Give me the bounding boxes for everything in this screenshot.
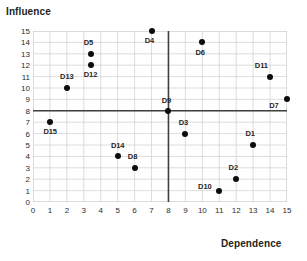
scatter-chart: Influence Dependence 0123456789101112131… bbox=[0, 0, 307, 261]
y-tick-1: 1 bbox=[16, 186, 30, 195]
x-tick-14: 14 bbox=[263, 206, 277, 215]
x-tick-13: 13 bbox=[246, 206, 260, 215]
y-tick-14: 14 bbox=[16, 38, 30, 47]
x-tick-9: 9 bbox=[178, 206, 192, 215]
y-tick-8: 8 bbox=[16, 106, 30, 115]
data-point-label-d7: D7 bbox=[269, 101, 278, 110]
data-point-d4 bbox=[149, 28, 155, 34]
x-tick-4: 4 bbox=[94, 206, 108, 215]
y-axis-title: Influence bbox=[6, 6, 51, 17]
y-tick-9: 9 bbox=[16, 95, 30, 104]
y-tick-4: 4 bbox=[16, 152, 30, 161]
y-tick-15: 15 bbox=[16, 27, 30, 36]
y-tick-7: 7 bbox=[16, 118, 30, 127]
data-point-d12 bbox=[88, 62, 94, 68]
x-tick-8: 8 bbox=[161, 206, 175, 215]
data-point-label-d14: D14 bbox=[111, 141, 124, 150]
x-tick-12: 12 bbox=[229, 206, 243, 215]
data-point-label-d13: D13 bbox=[60, 72, 73, 81]
data-point-label-d9: D9 bbox=[162, 96, 171, 105]
y-tick-2: 2 bbox=[16, 175, 30, 184]
data-point-label-d8: D8 bbox=[128, 152, 137, 161]
data-point-d10 bbox=[216, 188, 222, 194]
y-tick-6: 6 bbox=[16, 129, 30, 138]
data-point-label-d1: D1 bbox=[246, 129, 255, 138]
data-point-label-d5: D5 bbox=[84, 38, 93, 47]
x-tick-15: 15 bbox=[280, 206, 294, 215]
data-point-label-d11: D11 bbox=[255, 61, 268, 70]
x-tick-11: 11 bbox=[212, 206, 226, 215]
data-point-label-d10: D10 bbox=[198, 182, 211, 191]
data-point-label-d15: D15 bbox=[43, 127, 56, 136]
data-point-label-d2: D2 bbox=[229, 163, 238, 172]
data-point-label-d3: D3 bbox=[179, 118, 188, 127]
x-tick-10: 10 bbox=[195, 206, 209, 215]
x-axis-title: Dependence bbox=[221, 238, 281, 249]
x-tick-7: 7 bbox=[145, 206, 159, 215]
y-tick-13: 13 bbox=[16, 49, 30, 58]
plot-area bbox=[33, 31, 287, 202]
x-tick-1: 1 bbox=[43, 206, 57, 215]
data-point-d13 bbox=[64, 85, 70, 91]
data-point-d7 bbox=[284, 96, 290, 102]
x-tick-0: 0 bbox=[26, 206, 40, 215]
x-tick-3: 3 bbox=[77, 206, 91, 215]
y-tick-5: 5 bbox=[16, 141, 30, 150]
data-point-label-d12: D12 bbox=[84, 70, 97, 79]
y-tick-11: 11 bbox=[16, 72, 30, 81]
x-tick-6: 6 bbox=[128, 206, 142, 215]
x-tick-2: 2 bbox=[60, 206, 74, 215]
data-point-d5 bbox=[88, 51, 94, 57]
data-point-d11 bbox=[267, 74, 273, 80]
y-tick-12: 12 bbox=[16, 61, 30, 70]
data-point-label-d6: D6 bbox=[196, 48, 205, 57]
data-point-d8 bbox=[132, 165, 138, 171]
data-point-label-d4: D4 bbox=[145, 36, 154, 45]
x-tick-5: 5 bbox=[111, 206, 125, 215]
y-tick-10: 10 bbox=[16, 84, 30, 93]
grid-lines bbox=[33, 31, 287, 202]
y-tick-3: 3 bbox=[16, 163, 30, 172]
